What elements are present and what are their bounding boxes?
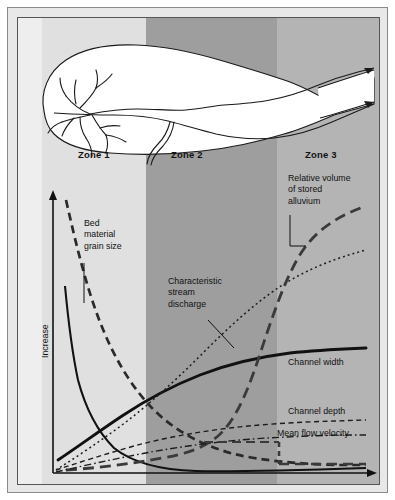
caption-bed-material-line1: Bed [84,218,122,229]
y-axis-label: Increase [40,324,50,358]
caption-bed-material-line2: material [84,229,122,240]
caption-bed-material: Bed material grain size [84,218,122,252]
caption-channel-depth: Channel depth [288,406,345,417]
caption-stored-alluvium-line2: of stored [288,184,351,195]
caption-stream-discharge-line3: discharge [168,299,222,310]
caption-stored-alluvium-line3: alluvium [288,196,351,207]
figure-outer-frame: Zone 1 Zone 2 Zone 3 [7,7,388,493]
y-axis-arrow-icon [49,190,57,200]
caption-mean-flow-velocity: Mean flow velocity [277,428,349,439]
caption-stored-alluvium: Relative volume of stored alluvium [288,173,351,207]
x-axis-arrow-icon [367,469,377,477]
caption-stream-discharge-line2: stream [168,287,222,298]
leader-stored-alluvium [290,215,306,246]
caption-stored-alluvium-line1: Relative volume [288,173,351,184]
figure-plate: Zone 1 Zone 2 Zone 3 [17,17,380,485]
figure-root: Zone 1 Zone 2 Zone 3 [0,0,395,500]
caption-channel-width: Channel width [288,357,344,368]
curve-grain-size-solid-branch [65,286,366,471]
caption-stream-discharge: Characteristic stream discharge [168,276,222,310]
caption-stream-discharge-line1: Characteristic [168,276,222,287]
caption-bed-material-line3: grain size [84,241,122,252]
